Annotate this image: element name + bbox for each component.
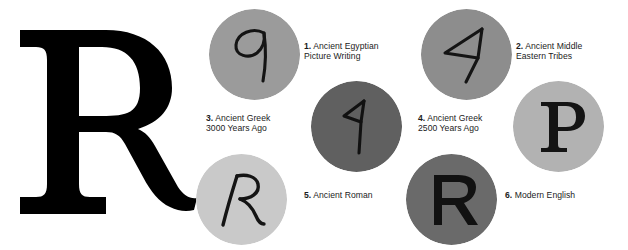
stage-label-6-line1: Modern English bbox=[515, 190, 575, 200]
stage-circle-4 bbox=[513, 81, 604, 172]
stage-caption-1: 1. Ancient Egyptian Picture Writing bbox=[304, 41, 379, 62]
stage-circle-1 bbox=[209, 9, 300, 100]
stage-caption-6: 6. Modern English bbox=[505, 190, 575, 200]
stage-number-5: 5. bbox=[304, 190, 311, 200]
stage-number-3: 3. bbox=[206, 113, 213, 123]
evolution-of-letter-r-figure: 1. Ancient Egyptian Picture Writing 2. A… bbox=[0, 0, 628, 250]
stage-circle-2 bbox=[421, 9, 512, 100]
stage-circle-6 bbox=[406, 154, 497, 245]
stage-caption-4: 4. Ancient Greek 2500 Years Ago bbox=[418, 113, 482, 134]
stage-caption-3: 3. Ancient Greek 3000 Years Ago bbox=[206, 113, 270, 134]
stage-number-2: 2. bbox=[516, 41, 523, 51]
hero-letter-r bbox=[14, 14, 204, 229]
stage-label-4-line2: 2500 Years Ago bbox=[418, 123, 479, 133]
stage-label-5-line1: Ancient Roman bbox=[313, 190, 372, 200]
stage-label-2-line1: Ancient Middle bbox=[525, 41, 582, 51]
stage-caption-5: 5. Ancient Roman bbox=[304, 190, 373, 200]
stage-circle-5 bbox=[196, 154, 287, 245]
stage-label-4-line1: Ancient Greek bbox=[427, 113, 482, 123]
stage-circle-3 bbox=[311, 81, 402, 172]
stage-label-2-line2: Eastern Tribes bbox=[516, 51, 572, 61]
stage-number-1: 1. bbox=[304, 41, 311, 51]
stage-caption-2: 2. Ancient Middle Eastern Tribes bbox=[516, 41, 582, 62]
stage-label-1-line2: Picture Writing bbox=[304, 51, 360, 61]
stage-label-1-line1: Ancient Egyptian bbox=[313, 41, 378, 51]
stage-label-3-line2: 3000 Years Ago bbox=[206, 123, 267, 133]
stage-label-3-line1: Ancient Greek bbox=[215, 113, 270, 123]
stage-number-4: 4. bbox=[418, 113, 425, 123]
stage-number-6: 6. bbox=[505, 190, 512, 200]
